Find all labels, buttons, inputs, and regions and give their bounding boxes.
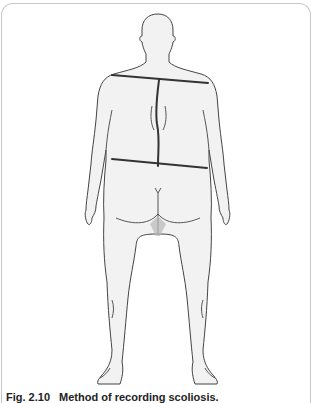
body-diagram [0, 0, 314, 403]
figure-title: Method of recording scoliosis. [59, 391, 219, 403]
figure-label: Fig. 2.10 [6, 391, 50, 403]
head [85, 14, 230, 384]
figure-caption: Fig. 2.10 Method of recording scoliosis. [6, 391, 219, 403]
